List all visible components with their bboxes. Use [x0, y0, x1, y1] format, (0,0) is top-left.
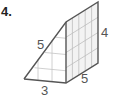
label-height: 4 — [101, 26, 108, 39]
label-slant: 5 — [37, 38, 44, 51]
prism-figure — [0, 0, 118, 104]
label-base: 3 — [41, 84, 48, 97]
label-depth: 5 — [81, 72, 88, 85]
